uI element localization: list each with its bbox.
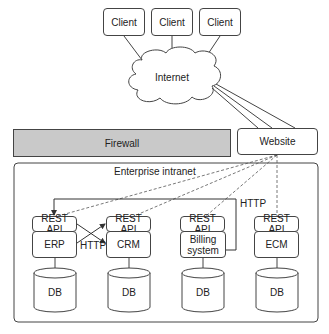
billing-node: Billing system	[180, 231, 226, 258]
db-label-crm: DB	[108, 287, 150, 298]
erp-node: ERP	[32, 231, 77, 258]
system-label: ECM	[265, 239, 287, 250]
client-label: Client	[111, 17, 137, 28]
system-label-line1: Billing	[190, 234, 217, 245]
firewall-node: Firewall	[13, 129, 231, 157]
ecm-rest-api: REST API	[254, 216, 299, 232]
db-label-erp: DB	[34, 287, 76, 298]
crm-rest-api: REST API	[106, 216, 151, 232]
http-label-billing-erp: HTTP	[240, 198, 266, 209]
client-node-2: Client	[151, 8, 193, 36]
client-label: Client	[207, 17, 233, 28]
system-label: CRM	[117, 239, 140, 250]
system-label-line2: system	[187, 245, 219, 256]
client-label: Client	[159, 17, 185, 28]
intranet-label: Enterprise intranet	[114, 166, 196, 177]
website-node: Website	[237, 128, 318, 155]
db-label-billing: DB	[182, 287, 224, 298]
client-node-3: Client	[199, 8, 241, 36]
firewall-label: Firewall	[105, 138, 139, 149]
internet-label: Internet	[155, 72, 189, 83]
billing-rest-api: REST API	[180, 216, 225, 232]
db-label-ecm: DB	[256, 287, 298, 298]
erp-rest-api: REST API	[32, 216, 77, 232]
website-label: Website	[260, 136, 296, 147]
ecm-node: ECM	[254, 231, 299, 258]
system-label: ERP	[44, 239, 65, 250]
http-label-erp-crm: HTTP	[80, 240, 106, 251]
client-node-1: Client	[103, 8, 145, 36]
crm-node: CRM	[106, 231, 151, 258]
